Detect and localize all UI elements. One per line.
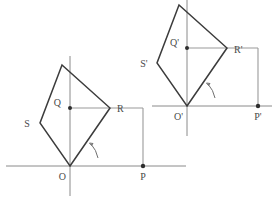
figure-canvas: Q R S O P Q' R' S' xyxy=(0,0,274,202)
original-figure-group: Q R S O P xyxy=(6,56,186,196)
label-R-prime: R' xyxy=(234,44,243,55)
label-O: O xyxy=(59,171,66,182)
angle-arc-image xyxy=(208,84,215,98)
point-P-prime-dot xyxy=(256,104,260,108)
label-Q-prime: Q' xyxy=(170,37,179,48)
label-S: S xyxy=(24,118,30,129)
angle-arc-original xyxy=(91,144,98,158)
label-Q: Q xyxy=(54,97,62,108)
image-figure-group: Q' R' S' O' P' xyxy=(140,0,272,136)
label-R: R xyxy=(117,103,124,114)
label-O-prime: O' xyxy=(174,111,183,122)
square-original xyxy=(40,65,110,166)
label-P-prime: P' xyxy=(254,111,262,122)
label-S-prime: S' xyxy=(140,58,148,69)
geometry-figure: Q R S O P Q' R' S' xyxy=(0,0,274,202)
point-Q-dot xyxy=(68,106,72,110)
square-image xyxy=(157,5,227,106)
point-P-dot xyxy=(141,164,145,168)
label-P: P xyxy=(140,171,146,182)
point-Q-prime-dot xyxy=(185,46,189,50)
